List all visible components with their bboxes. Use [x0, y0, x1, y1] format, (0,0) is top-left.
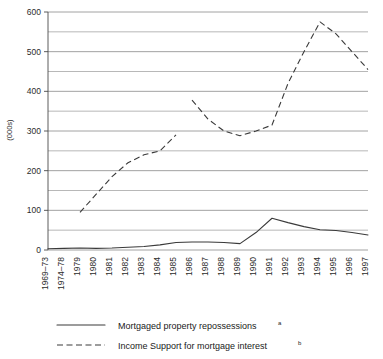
x-tick-label: 1996: [344, 257, 354, 276]
x-tick-label: 1983: [136, 257, 146, 276]
gridlines-group: [48, 12, 368, 250]
y-tick-label: 0: [36, 245, 41, 255]
y-tick-label: 600: [27, 7, 41, 17]
x-tick-label: 1985: [168, 257, 178, 276]
x-tick-label: 1986: [184, 257, 194, 276]
x-tick-label: 1988: [216, 257, 226, 276]
legend-label: Income Support for mortgage interest: [118, 341, 268, 351]
y-tick-label: 400: [27, 86, 41, 96]
legend-label: Mortgaged property repossessions: [118, 321, 257, 331]
line-chart: 0100200300400500600 (000s) 1969–731974–7…: [0, 0, 383, 359]
x-tick-label: 1981: [104, 257, 114, 276]
x-tick-label: 1995: [328, 257, 338, 276]
x-tick-label: 1979: [72, 257, 82, 276]
x-tick-labels: 1969–731974–7819791980198119821983198419…: [40, 257, 370, 290]
y-tick-label: 300: [27, 126, 41, 136]
x-tick-label: 1991: [264, 257, 274, 276]
x-tick-label: 1992: [280, 257, 290, 276]
legend-footnote-marker: a: [278, 320, 282, 326]
y-axis-title: (000s): [5, 119, 14, 141]
data-series-layer: [48, 22, 368, 249]
x-tick-label: 1989: [232, 257, 242, 276]
y-tick-label: 100: [27, 205, 41, 215]
x-tick-label: 1993: [296, 257, 306, 276]
income-support-segment-2: [192, 22, 368, 136]
x-tick-label: 1984: [152, 257, 162, 276]
series-income-support-for-mortgage-interest: [80, 22, 368, 212]
x-tick-label: 1997: [360, 257, 370, 276]
x-tick-label: 1994: [312, 257, 322, 276]
series-mortgaged-property-repossessions: [48, 218, 368, 249]
x-tick-label: 1990: [248, 257, 258, 276]
legend-footnote-marker: b: [298, 340, 302, 346]
y-axis: [44, 12, 48, 250]
y-tick-labels: 0100200300400500600: [27, 7, 41, 255]
x-tick-label: 1969–73: [40, 257, 50, 290]
x-tick-label: 1974–78: [56, 257, 66, 290]
income-support-segment-1: [80, 135, 176, 212]
x-tick-label: 1987: [200, 257, 210, 276]
chart-figure: 0100200300400500600 (000s) 1969–731974–7…: [0, 0, 383, 359]
y-tick-label: 500: [27, 47, 41, 57]
x-tick-label: 1982: [120, 257, 130, 276]
x-tick-label: 1980: [88, 257, 98, 276]
chart-legend: Mortgaged property repossessionsaIncome …: [57, 320, 302, 351]
y-tick-label: 200: [27, 166, 41, 176]
